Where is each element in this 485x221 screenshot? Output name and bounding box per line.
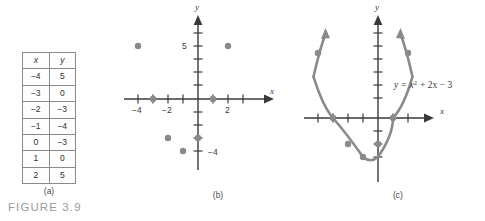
curve-point <box>360 154 366 160</box>
value-table-panel: x y −4 5 −3 0 −2 −3 −1 −4 0 −3 <box>22 52 76 184</box>
column-header-y: y <box>49 53 76 69</box>
equation-lhs: y <box>393 80 399 90</box>
parabola-plot-svg: x y <box>300 0 485 190</box>
table-row: −1 −4 <box>23 118 76 134</box>
data-point <box>180 148 186 154</box>
cell-y: 5 <box>49 69 76 85</box>
cell-y: 0 <box>49 151 76 167</box>
x-tick-label-neg4: −4 <box>132 105 142 115</box>
cell-x: −4 <box>23 69 50 85</box>
right-tail-arrowhead <box>396 28 405 39</box>
curve-point <box>330 115 336 121</box>
parabola-plot-panel: x y <box>300 0 485 190</box>
table-header-row: x y <box>23 53 76 69</box>
data-point <box>195 135 201 141</box>
data-point <box>165 135 171 141</box>
cell-x: −1 <box>23 118 50 134</box>
equation-exponent: 2 <box>414 79 417 86</box>
cell-y: −3 <box>49 135 76 151</box>
equation-rest: + 2x − 3 <box>420 80 452 90</box>
cell-x: −2 <box>23 102 50 118</box>
y-axis-arrowhead <box>374 15 383 25</box>
table-row: −2 −3 <box>23 102 76 118</box>
cell-x: 1 <box>23 151 50 167</box>
table-row: −3 0 <box>23 85 76 101</box>
y-axis-label: y <box>374 2 379 12</box>
x-axis-group: x −4 −2 2 <box>124 86 274 115</box>
table-row: 0 −3 <box>23 135 76 151</box>
cell-y: 0 <box>49 85 76 101</box>
curve-point <box>390 115 396 121</box>
x-tick-label-pos2: 2 <box>225 105 230 115</box>
parabola-curve-group <box>314 28 413 160</box>
cell-y: −3 <box>49 102 76 118</box>
curve-point <box>405 50 411 56</box>
column-header-x: x <box>23 53 50 69</box>
xy-value-table: x y −4 5 −3 0 −2 −3 −1 −4 0 −3 <box>22 52 76 184</box>
x-tick-label-neg2: −2 <box>162 105 172 115</box>
figure-caption: FIGURE 3.9 <box>8 201 82 213</box>
panel-label-a: (a) <box>29 186 69 196</box>
table-row: 2 5 <box>23 167 76 183</box>
y-tick-label-neg4: −4 <box>208 147 218 157</box>
curve-point <box>375 141 381 147</box>
equation-equals: = <box>401 80 406 90</box>
curve-point <box>345 141 351 147</box>
curve-point <box>315 50 321 56</box>
y-axis-arrowhead <box>194 15 203 25</box>
scatter-plot-svg: x −4 −2 2 y 5 −4 <box>120 0 280 190</box>
cell-x: 2 <box>23 167 50 183</box>
data-point <box>210 96 216 102</box>
cell-x: −3 <box>23 85 50 101</box>
x-axis-arrowhead <box>424 114 434 123</box>
x-axis-label: x <box>439 106 444 116</box>
data-point <box>225 43 231 49</box>
panel-label-b: (b) <box>198 190 238 200</box>
scatter-plot-panel: x −4 −2 2 y 5 −4 <box>120 0 280 190</box>
panel-label-c: (c) <box>378 190 418 200</box>
table-row: 1 0 <box>23 151 76 167</box>
equation-annotation: y=x2+ 2x − 3 <box>393 79 452 91</box>
cell-y: 5 <box>49 167 76 183</box>
y-axis-group: y 5 −4 <box>182 2 218 170</box>
cell-x: 0 <box>23 135 50 151</box>
data-point <box>150 96 156 102</box>
y-tick-label-pos5: 5 <box>182 41 187 51</box>
left-tail-arrowhead <box>321 28 330 39</box>
cell-y: −4 <box>49 118 76 134</box>
x-axis-label: x <box>269 86 274 96</box>
y-axis-label: y <box>194 2 199 12</box>
table-row: −4 5 <box>23 69 76 85</box>
data-point <box>135 43 141 49</box>
